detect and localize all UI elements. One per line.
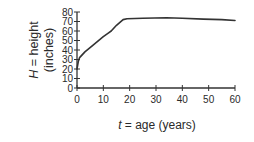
y-tick-label: 30 [62,54,74,65]
y-tick-label: 10 [62,73,74,84]
x-tick-label: 40 [177,94,189,105]
y-tick-label: 60 [62,26,74,37]
y-axis-label-line1: H = height [27,21,41,79]
series-line-height [77,18,235,69]
y-tick-label: 0 [67,83,73,94]
y-tick-label: 20 [62,64,74,75]
x-axis-label-text: = age (years) [121,118,195,132]
x-axis-label: t = age (years) [118,118,196,132]
x-tick-label: 20 [124,94,136,105]
y-axis-units: (inches) [42,28,56,72]
axes [77,12,235,88]
y-tick-label: 40 [62,45,74,56]
height-vs-age-chart: H = height (inches) 01020304050600102030… [0,0,254,142]
y-tick-label: 50 [62,35,74,46]
tick-labels: 010203040506001020304050607080 [62,7,241,106]
y-axis-label: H = height (inches) [27,21,56,79]
x-tick-label: 30 [150,94,162,105]
x-tick-label: 50 [203,94,215,105]
series [77,18,235,69]
ticks [74,12,235,91]
x-tick-label: 10 [98,94,110,105]
x-tick-label: 60 [229,94,241,105]
y-axis-label-text: = height [27,21,41,70]
y-tick-label: 80 [62,7,74,18]
x-tick-label: 0 [74,94,80,105]
y-tick-label: 70 [62,16,74,27]
